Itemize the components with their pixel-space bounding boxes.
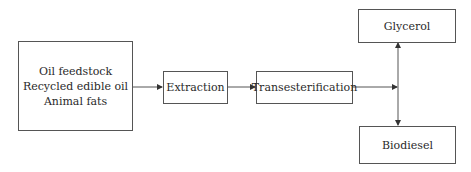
feedstock-line-1: Oil feedstock bbox=[39, 64, 112, 79]
extraction-label: Extraction bbox=[166, 80, 224, 95]
feedstock-node: Oil feedstock Recycled edible oil Animal… bbox=[18, 41, 133, 131]
extraction-node: Extraction bbox=[163, 71, 228, 104]
glycerol-node: Glycerol bbox=[358, 9, 456, 43]
transesterification-node: Transesterification bbox=[256, 71, 353, 104]
feedstock-line-3: Animal fats bbox=[44, 94, 107, 109]
feedstock-line-2: Recycled edible oil bbox=[23, 79, 128, 94]
transesterification-label: Transesterification bbox=[252, 80, 357, 95]
glycerol-label: Glycerol bbox=[384, 19, 431, 34]
biodiesel-node: Biodiesel bbox=[359, 126, 456, 164]
biodiesel-label: Biodiesel bbox=[382, 138, 433, 153]
